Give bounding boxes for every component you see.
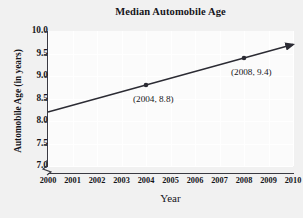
y-tick-label: 9.5 [8, 48, 48, 58]
gridline-horizontal [48, 121, 293, 122]
y-tick-label: 10.0 [8, 25, 48, 35]
median-automobile-age-chart: Median Automobile Age Automobile Age (in… [0, 0, 303, 218]
y-tick-mark [44, 76, 48, 77]
gridline-horizontal [48, 54, 293, 55]
data-point-annotation: (2004, 8.8) [133, 94, 174, 104]
gridline-horizontal [48, 144, 293, 145]
y-tick-mark [44, 54, 48, 55]
y-tick-mark [44, 99, 48, 100]
y-tick-mark [44, 166, 48, 167]
x-axis-line [48, 173, 294, 174]
y-tick-mark [44, 31, 48, 32]
y-tick-label: 8.0 [8, 115, 48, 125]
y-tick-label: 7.0 [8, 160, 48, 170]
x-tick-label: 2010 [273, 176, 303, 185]
gridline-vertical [293, 31, 294, 166]
y-tick-label: 7.5 [8, 138, 48, 148]
chart-title: Median Automobile Age [48, 6, 293, 17]
y-tick-mark [44, 121, 48, 122]
y-tick-mark [44, 144, 48, 145]
x-axis-title: Year [48, 192, 293, 204]
y-tick-label: 8.5 [8, 93, 48, 103]
gridline-horizontal [48, 166, 293, 167]
y-tick-label: 9.0 [8, 70, 48, 80]
data-point-annotation: (2008, 9.4) [231, 67, 272, 77]
